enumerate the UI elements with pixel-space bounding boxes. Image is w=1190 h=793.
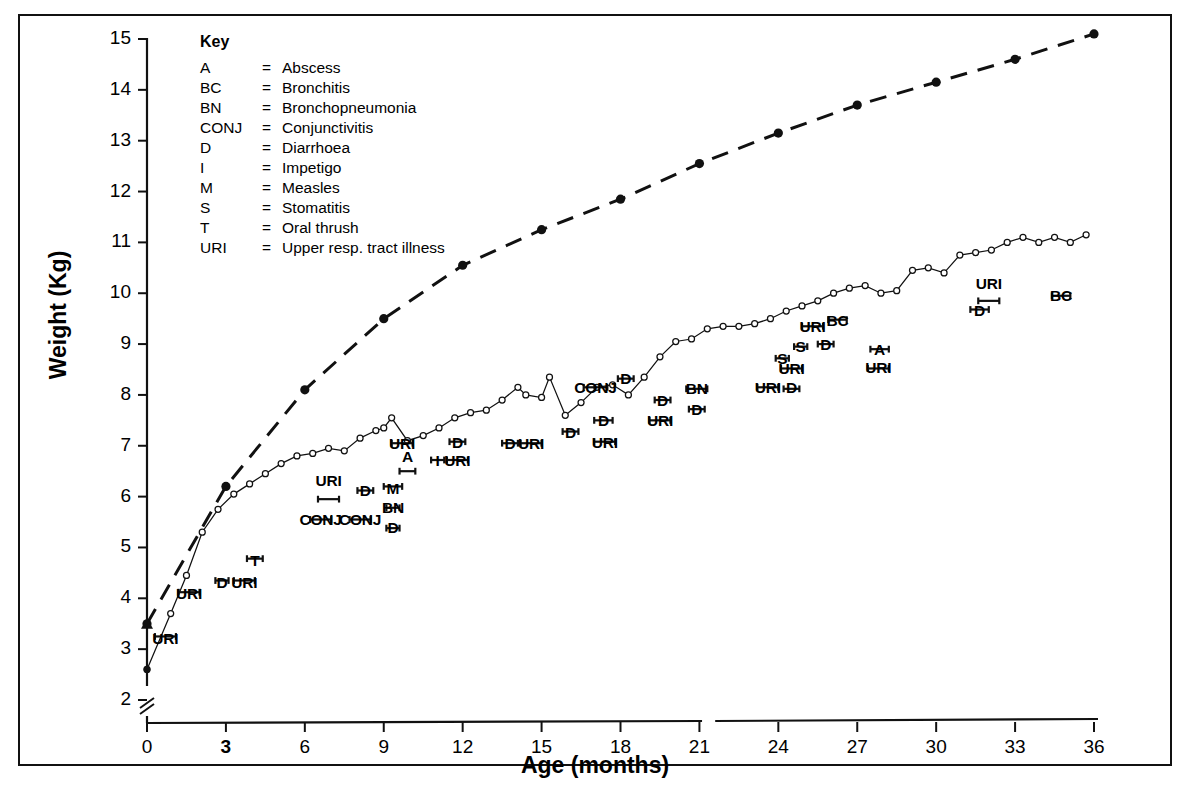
child-point — [546, 374, 552, 380]
illness-label: D — [387, 521, 398, 537]
key-abbreviation: A — [200, 58, 262, 78]
key-equals-sign: = — [262, 178, 282, 198]
reference-point — [616, 195, 625, 204]
illness-label: D — [452, 435, 463, 451]
illness-label: A — [402, 449, 413, 465]
key-row: I=Impetigo — [200, 158, 445, 178]
child-point — [862, 283, 868, 289]
x-tick-label: 18 — [601, 736, 641, 758]
key-description: Stomatitis — [282, 198, 350, 218]
key-description: Abscess — [282, 58, 341, 78]
illness-label: T — [250, 553, 259, 569]
illness-label: D — [505, 436, 516, 452]
illness-label: URI — [778, 361, 804, 377]
child-point — [381, 425, 387, 431]
key-description: Oral thrush — [282, 218, 359, 238]
child-point — [783, 308, 789, 314]
x-axis-line — [147, 721, 702, 723]
child-point — [704, 326, 710, 332]
reference-point — [221, 482, 230, 491]
child-point — [815, 298, 821, 304]
key-abbreviation: URI — [200, 238, 262, 258]
illness-label: BN — [382, 500, 404, 516]
key-abbreviation: T — [200, 218, 262, 238]
child-point — [436, 425, 442, 431]
child-point — [1083, 232, 1089, 238]
illness-label: D — [598, 414, 609, 430]
illness-label: S — [796, 340, 806, 356]
chart-figure: Key A=AbscessBC=BronchitisBN=Bronchopneu… — [0, 0, 1190, 793]
y-tick-label: 11 — [91, 230, 131, 252]
illness-label: D — [565, 425, 576, 441]
illness-label: BC — [1050, 289, 1072, 305]
child-point — [625, 392, 631, 398]
child-point — [420, 433, 426, 439]
key-row: D=Diarrhoea — [200, 138, 445, 158]
child-point — [539, 394, 545, 400]
key-row: A=Abscess — [200, 58, 445, 78]
child-point — [941, 270, 947, 276]
key-description: Bronchitis — [282, 78, 350, 98]
child-point — [199, 529, 205, 535]
x-tick-label: 30 — [916, 736, 956, 758]
child-point — [894, 288, 900, 294]
illness-label: URI — [647, 414, 673, 430]
y-tick-label: 13 — [91, 129, 131, 151]
illness-label: URI — [152, 631, 178, 647]
child-point — [562, 412, 568, 418]
child-point — [641, 374, 647, 380]
illness-label: URI — [976, 276, 1002, 292]
illness-label: BC — [827, 313, 849, 329]
child-start-point — [144, 666, 151, 673]
key-abbreviation: BN — [200, 98, 262, 118]
key-abbreviation: M — [200, 178, 262, 198]
x-axis-line — [715, 719, 1098, 721]
child-point — [499, 397, 505, 403]
x-tick-label: 21 — [679, 736, 719, 758]
key-description: Diarrhoea — [282, 138, 350, 158]
key-row: URI=Upper resp. tract illness — [200, 238, 445, 258]
y-tick-label: 8 — [91, 383, 131, 405]
y-tick-label: 2 — [91, 688, 131, 710]
illness-label: URI — [799, 319, 825, 335]
y-tick-label: 7 — [91, 434, 131, 456]
illness-label: CONJ — [299, 512, 341, 528]
y-tick-label: 3 — [91, 637, 131, 659]
key-description: Bronchopneumonia — [282, 98, 416, 118]
key-title: Key — [200, 32, 445, 53]
reference-point — [774, 128, 783, 137]
child-point — [909, 267, 915, 273]
y-tick-label: 15 — [91, 27, 131, 49]
illness-label: URI — [592, 435, 618, 451]
child-point — [925, 265, 931, 271]
key-abbreviation: D — [200, 138, 262, 158]
child-point — [846, 285, 852, 291]
x-tick-label: 27 — [837, 736, 877, 758]
illness-label: D — [691, 402, 702, 418]
reference-point — [1010, 55, 1019, 64]
child-point — [278, 461, 284, 467]
child-point — [215, 506, 221, 512]
x-tick-label: 6 — [285, 736, 325, 758]
illness-label: M — [387, 481, 400, 497]
key-description: Conjunctivitis — [282, 118, 373, 138]
child-point — [483, 407, 489, 413]
child-point — [341, 448, 347, 454]
child-point — [657, 354, 663, 360]
illness-label: URI — [231, 575, 257, 591]
key-equals-sign: = — [262, 98, 282, 118]
key-row: BN=Bronchopneumonia — [200, 98, 445, 118]
x-tick-label: 24 — [758, 736, 798, 758]
key-row: T=Oral thrush — [200, 218, 445, 238]
y-tick-label: 5 — [91, 535, 131, 557]
key-row: M=Measles — [200, 178, 445, 198]
key-equals-sign: = — [262, 158, 282, 178]
reference-point — [379, 314, 388, 323]
y-tick-label: 10 — [91, 281, 131, 303]
illness-label: URI — [518, 436, 544, 452]
illness-label: URI — [176, 587, 202, 603]
y-tick-label: 14 — [91, 78, 131, 100]
key-abbreviation: BC — [200, 78, 262, 98]
child-point — [578, 400, 584, 406]
x-tick-label: 33 — [995, 736, 1035, 758]
